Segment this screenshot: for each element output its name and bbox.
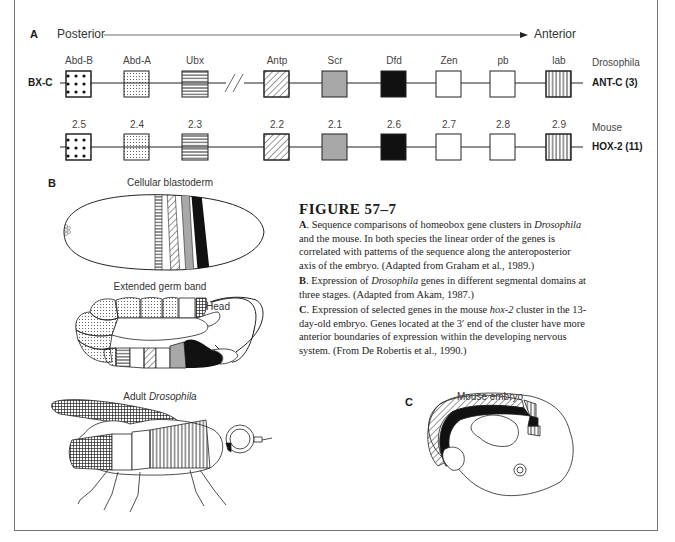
caption-a-text-2: and the mouse. In both species the linea… — [299, 233, 571, 271]
caption-b-text-1: . Expression of — [306, 275, 371, 286]
head-label: Head — [203, 301, 233, 312]
adult-drosophila-title: Adult Drosophila — [105, 391, 215, 402]
caption-b-letter: B — [299, 275, 306, 286]
mouse-embryo-title: Mouse embryo — [445, 391, 535, 402]
caption-c-text-1: . Expression of selected genes in the mo… — [307, 304, 490, 315]
panel-c-letter: C — [405, 396, 413, 408]
adult-title-prefix: Adult — [123, 391, 149, 402]
caption-b-italic: Drosophila — [371, 275, 418, 286]
caption-c-italic: hox-2 — [490, 304, 514, 315]
adult-title-italic: Drosophila — [149, 391, 197, 402]
caption-a-text-1: . Sequence comparisons of homeobox gene … — [307, 219, 535, 230]
caption-a-letter: A — [299, 219, 307, 230]
caption-a-italic: Drosophila — [534, 219, 581, 230]
caption-b: B. Expression of Drosophila genes in dif… — [299, 274, 589, 301]
caption-c: C. Expression of selected genes in the m… — [299, 303, 589, 357]
figure-title: FIGURE 57–7 — [299, 201, 397, 218]
caption-c-letter: C — [299, 304, 307, 315]
caption-a: A. Sequence comparisons of homeobox gene… — [299, 218, 589, 272]
